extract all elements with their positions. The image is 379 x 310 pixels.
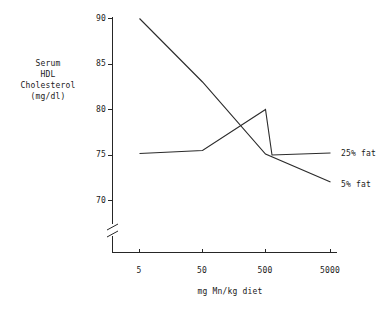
x-tick-label-50: 50 <box>185 266 219 276</box>
chart-figure: 90 85 80 75 70 5 50 500 5000 Serum HDL C… <box>0 0 379 310</box>
x-tick-label-500: 500 <box>248 266 282 276</box>
y-axis-break-icon <box>107 224 118 237</box>
series-label-25pct-fat: 25% fat <box>341 149 376 159</box>
series-line-25pct-fat <box>140 110 331 156</box>
series-line-5pct-fat <box>140 19 331 183</box>
chart-plot-area <box>0 0 379 310</box>
y-tick-label-90: 90 <box>84 14 106 24</box>
series-label-5pct-fat: 5% fat <box>341 180 371 190</box>
x-tick-label-5000: 5000 <box>313 266 347 276</box>
y-tick-label-70: 70 <box>84 196 106 206</box>
y-axis-title-line-1: Serum <box>6 58 90 69</box>
y-axis-title-line-3: Cholesterol <box>6 80 90 91</box>
x-axis-title: mg Mn/kg diet <box>150 287 310 297</box>
y-axis-title-line-2: HDL <box>6 69 90 80</box>
y-tick-label-75: 75 <box>84 150 106 160</box>
x-tick-label-5: 5 <box>122 266 156 276</box>
y-tick-label-80: 80 <box>84 105 106 115</box>
y-axis-title-line-4: (mg/dl) <box>6 91 90 102</box>
